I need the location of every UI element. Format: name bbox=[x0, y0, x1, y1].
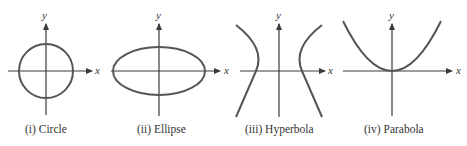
y-axis-label: y bbox=[388, 9, 394, 21]
caption-hyperbola: (iii) Hyperbola bbox=[245, 123, 314, 135]
x-axis-label: x bbox=[455, 64, 461, 76]
circle-panel: x y bbox=[8, 9, 100, 115]
y-axis-label: y bbox=[41, 9, 47, 21]
x-axis-label: x bbox=[327, 64, 333, 76]
caption-ellipse: (ii) Ellipse bbox=[137, 123, 186, 135]
y-axis-label: y bbox=[275, 9, 281, 21]
y-axis-label: y bbox=[155, 9, 161, 21]
caption-parabola: (iv) Parabola bbox=[364, 123, 424, 135]
ellipse-panel: x y bbox=[111, 9, 229, 116]
hyperbola-panel: x y bbox=[236, 9, 333, 117]
x-axis-label: x bbox=[223, 64, 229, 76]
parabola-panel: x y bbox=[343, 9, 461, 116]
caption-circle: (i) Circle bbox=[25, 123, 67, 135]
x-axis-label: x bbox=[94, 64, 100, 76]
